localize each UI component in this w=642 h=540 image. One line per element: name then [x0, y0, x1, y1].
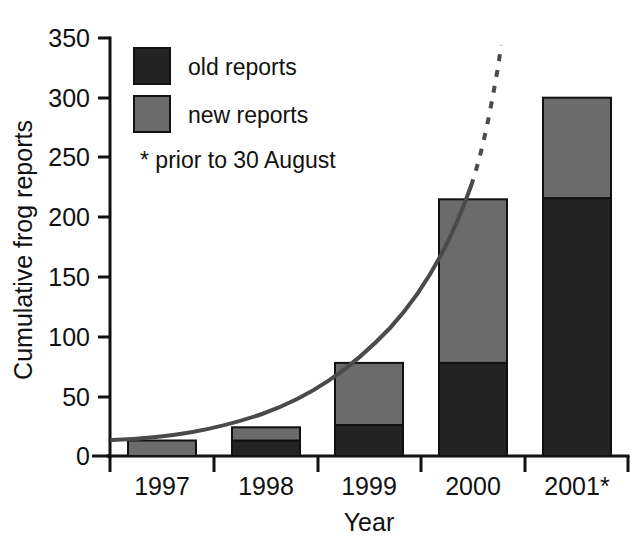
bar-group-2001 — [543, 98, 611, 456]
bar-old-1999 — [335, 425, 403, 456]
chart-legend: old reports new reports * prior to 30 Au… — [134, 48, 336, 173]
x-tick-label-1998: 1998 — [238, 472, 294, 500]
y-tick-label-200: 200 — [48, 203, 90, 231]
bar-new-1999 — [335, 363, 403, 425]
bar-group-1999 — [335, 363, 403, 456]
x-tick-label-2001: 2001* — [544, 472, 610, 500]
bar-new-2001 — [543, 98, 611, 198]
bar-new-1997 — [128, 441, 196, 457]
x-tick-label-1997: 1997 — [134, 472, 190, 500]
legend-label-new-reports: new reports — [188, 102, 308, 128]
y-tick-label-300: 300 — [48, 84, 90, 112]
x-axis-title: Year — [344, 508, 395, 536]
bar-old-2000 — [439, 363, 507, 456]
bar-old-1998 — [232, 441, 300, 457]
legend-label-old-reports: old reports — [188, 54, 297, 80]
frog-reports-chart-figure: 350 300 250 200 150 100 50 0 Cumulative … — [0, 0, 642, 540]
trend-line-solid — [112, 186, 471, 440]
y-tick-label-350: 350 — [48, 24, 90, 52]
y-tick-label-50: 50 — [62, 383, 90, 411]
bar-new-2000 — [439, 199, 507, 363]
y-tick-label-100: 100 — [48, 323, 90, 351]
y-tick-label-150: 150 — [48, 263, 90, 291]
legend-swatch-new-reports — [134, 96, 170, 132]
y-tick-label-250: 250 — [48, 143, 90, 171]
bar-new-1998 — [232, 427, 300, 440]
x-axis: 1997 1998 1999 2000 2001* Year — [108, 456, 628, 536]
y-axis-title: Cumulative frog reports — [9, 120, 37, 380]
chart-canvas: 350 300 250 200 150 100 50 0 Cumulative … — [0, 0, 642, 540]
bar-group-1998 — [232, 427, 300, 456]
legend-swatch-old-reports — [134, 48, 170, 84]
y-tick-label-0: 0 — [76, 442, 90, 470]
y-axis: 350 300 250 200 150 100 50 0 Cumulative … — [9, 24, 110, 470]
bar-group-1997 — [128, 441, 196, 457]
x-tick-label-1999: 1999 — [341, 472, 397, 500]
bar-old-2001 — [543, 198, 611, 456]
x-tick-label-2000: 2000 — [445, 472, 501, 500]
legend-footnote: * prior to 30 August — [140, 147, 336, 173]
trend-line-dashed — [471, 45, 501, 186]
